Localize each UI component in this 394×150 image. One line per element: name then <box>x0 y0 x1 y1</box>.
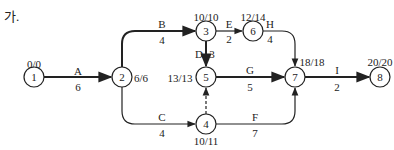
activity-f-name: F <box>252 112 258 123</box>
node-4-times: 10/11 <box>194 136 219 147</box>
activity-f-duration: 7 <box>252 128 258 139</box>
node-8-id: 8 <box>377 72 383 83</box>
activity-a-duration: 6 <box>75 82 81 93</box>
activity-b-duration: 4 <box>159 35 165 46</box>
activity-d-name: D <box>195 49 203 60</box>
node-6-id: 6 <box>250 26 256 37</box>
node-7-id: 7 <box>292 72 298 83</box>
activity-c-name: C <box>158 112 165 123</box>
activity-d-duration: 3 <box>209 49 215 60</box>
node-1-times: 0/0 <box>27 59 41 70</box>
node-7-times: 18/18 <box>299 57 324 68</box>
node-1-id: 1 <box>31 72 37 83</box>
activity-i-duration: 2 <box>334 82 340 93</box>
node-5-times: 13/13 <box>167 73 192 84</box>
node-2-times: 6/6 <box>134 73 148 84</box>
activity-g-duration: 5 <box>247 82 253 93</box>
activity-i-name: I <box>335 65 339 76</box>
activity-e-duration: 2 <box>226 34 232 45</box>
node-5-id: 5 <box>203 72 209 83</box>
activity-b-name: B <box>158 19 165 30</box>
activity-g-name: G <box>246 65 254 76</box>
node-3-times: 10/10 <box>193 12 218 23</box>
activity-c-duration: 4 <box>159 128 165 139</box>
node-3-id: 3 <box>203 26 209 37</box>
activity-e-name: E <box>226 19 233 30</box>
node-6-times: 12/14 <box>240 12 265 23</box>
activity-a-name: A <box>74 66 82 77</box>
node-8-times: 20/20 <box>367 57 392 68</box>
activity-h-name: H <box>266 19 274 30</box>
node-2-id: 2 <box>119 72 125 83</box>
node-4-id: 4 <box>203 119 209 130</box>
activity-h-duration: 4 <box>267 34 273 45</box>
